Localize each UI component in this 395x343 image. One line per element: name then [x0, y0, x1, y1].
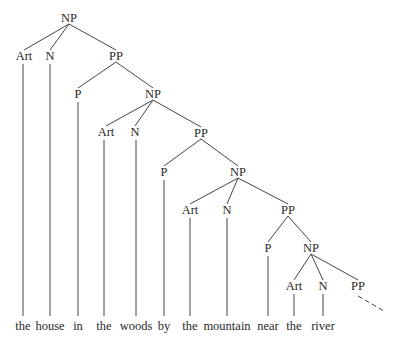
node-n: N: [45, 50, 54, 63]
node-art: Art: [286, 280, 303, 293]
node-np: NP: [145, 88, 161, 101]
word: by: [158, 320, 171, 333]
node-pp: PP: [351, 280, 365, 293]
node-n: N: [222, 204, 231, 217]
node-np: NP: [230, 166, 246, 179]
node-n: N: [130, 126, 139, 139]
node-n: N: [318, 280, 327, 293]
node-p: P: [161, 166, 168, 179]
node-np: NP: [61, 12, 77, 25]
word: the: [182, 320, 197, 333]
node-pp: PP: [281, 204, 295, 217]
word: the: [286, 320, 301, 333]
node-np: NP: [303, 242, 319, 255]
node-pp: PP: [109, 50, 123, 63]
tree-edges: [0, 0, 395, 343]
node-pp: PP: [194, 127, 208, 140]
word: the: [96, 320, 111, 333]
syntax-tree-diagram: NP Art N PP P NP Art N PP P NP Art N PP …: [0, 0, 395, 343]
word: in: [73, 320, 83, 333]
node-art: Art: [98, 126, 115, 139]
word: house: [35, 320, 64, 333]
node-art: Art: [182, 204, 199, 217]
word: woods: [120, 320, 153, 333]
continuation-dashed-line: [358, 296, 384, 311]
word: the: [15, 320, 30, 333]
node-art: Art: [16, 50, 33, 63]
node-p: P: [75, 88, 82, 101]
node-p: P: [265, 242, 272, 255]
word: near: [257, 320, 279, 333]
word: river: [311, 320, 335, 333]
word: mountain: [203, 320, 250, 333]
